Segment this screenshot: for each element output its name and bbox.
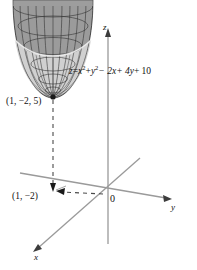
x-axis xyxy=(38,158,140,248)
equation-term5: + 10 xyxy=(134,66,151,76)
paraboloid-figure: z y x 0 (1, −2, 5) (1, −2) z=x2+y2− 2x+ … xyxy=(0,0,197,270)
z-axis-label: z xyxy=(103,23,107,32)
equation-term4: + 4y xyxy=(116,66,134,76)
surface-equation: z=x2+y2− 2x+ 4y+ 10 xyxy=(69,65,151,77)
equation-term3: − 2x xyxy=(98,66,116,76)
projection-point-label: (1, −2) xyxy=(12,192,38,202)
y-axis xyxy=(20,173,166,198)
figure-canvas xyxy=(0,0,197,270)
guide-lines xyxy=(50,100,103,195)
y-axis-label: y xyxy=(171,203,175,212)
horizontal-guide-line xyxy=(62,192,103,194)
vertex-point-dot xyxy=(50,94,55,99)
paraboloid-surface xyxy=(13,0,93,98)
origin-label: 0 xyxy=(110,194,115,204)
y-axis-arrowhead xyxy=(163,195,172,202)
x-axis-label: x xyxy=(34,253,38,262)
vertical-drop-arrowhead xyxy=(50,183,56,192)
vertex-point-label: (1, −2, 5) xyxy=(6,97,41,107)
